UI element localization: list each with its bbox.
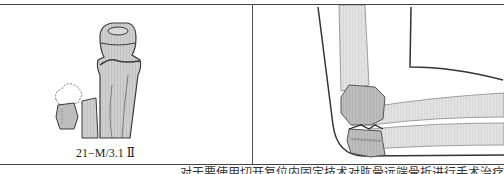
bone-fracture-illustration [0,5,252,164]
caption-text: 对于要使用切开复位内固定技术对肱骨远端骨折进行手术治疗 [0,166,504,174]
right-panel [253,5,504,164]
elbow-fracture-illustration [253,5,504,164]
figure-caption: 对于要使用切开复位内固定技术对肱骨远端骨折进行手术治疗 [0,164,504,174]
classification-label: 21−M/3.1 Ⅱ [76,146,135,161]
left-panel: 21−M/3.1 Ⅱ [0,5,252,164]
